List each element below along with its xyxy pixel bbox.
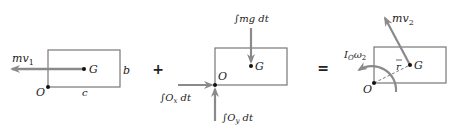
pivot-dot — [213, 83, 217, 87]
center-of-mass-dot — [249, 64, 253, 68]
label-o: O — [218, 70, 227, 83]
center-of-mass-dot — [82, 67, 86, 71]
label-mv2: mv2 — [392, 12, 414, 27]
label-mg-impulse: ∫mg dt — [234, 13, 270, 24]
label-oy-impulse: ∫Oy dt — [222, 112, 254, 125]
label-ox-impulse: ∫Ox dt — [160, 92, 192, 105]
label-r-bar: r — [396, 61, 402, 72]
label-o: O — [36, 86, 45, 99]
label-g: G — [255, 60, 264, 73]
panel-final-momentum: mv2 IOω2 r G O — [343, 12, 446, 96]
label-io-omega2: IOω2 — [343, 49, 366, 62]
label-g: G — [89, 63, 98, 76]
pivot-dot — [46, 85, 50, 89]
label-c: c — [82, 87, 88, 98]
label-g: G — [414, 59, 423, 72]
impulse-momentum-diagram: mv1 G O b c + ∫mg dt G O ∫Ox dt ∫Oy dt =… — [0, 0, 459, 131]
label-b: b — [123, 64, 130, 77]
panel-external-impulses: ∫mg dt G O ∫Ox dt ∫Oy dt — [160, 13, 287, 125]
panel-initial-momentum: mv1 G O b c — [12, 50, 130, 99]
label-o: O — [363, 83, 372, 96]
center-of-mass-dot — [408, 63, 412, 67]
momentum-arrow-mv2 — [385, 18, 410, 65]
label-mv1: mv1 — [12, 52, 34, 67]
pivot-dot — [372, 81, 376, 85]
equals-operator: = — [317, 60, 329, 76]
plus-operator: + — [152, 61, 164, 77]
